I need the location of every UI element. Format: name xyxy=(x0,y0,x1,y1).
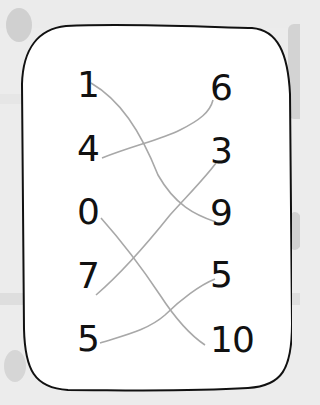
left-number-2: 4 xyxy=(77,131,99,167)
left-number-3: 0 xyxy=(77,194,99,230)
right-number-3: 9 xyxy=(210,195,232,231)
right-number-2: 3 xyxy=(210,133,232,169)
right-number-4: 5 xyxy=(210,257,232,293)
left-number-4: 7 xyxy=(77,258,99,294)
left-number-1: 1 xyxy=(77,67,99,103)
left-number-5: 5 xyxy=(77,321,99,357)
right-number-5: 10 xyxy=(210,322,254,358)
right-number-1: 6 xyxy=(210,70,232,106)
